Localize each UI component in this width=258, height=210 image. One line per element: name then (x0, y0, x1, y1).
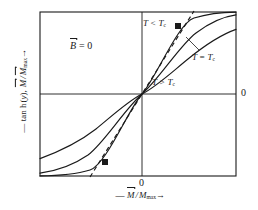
y-axis-func-tanh: tan h (18, 103, 28, 121)
field-vector-symbol: B (70, 41, 76, 51)
y-axis-label: —tan h(y),M/Mmax→ (18, 16, 28, 166)
field-equals-zero: = 0 (79, 40, 92, 51)
x-axis-label-arrow: → (156, 190, 164, 200)
y-axis-arg-open: ( (18, 99, 28, 102)
above-tc-subscript: c (172, 81, 174, 87)
plot-svg (0, 0, 258, 210)
y-axis-slash: / (18, 76, 28, 79)
x-axis-label: —M/Mmax→ (80, 190, 200, 200)
figure-container: B= 0 T < Tc T = Tc T > Tc 0 0 —M/Mmax→ —… (0, 0, 258, 210)
y-axis-arg-y: y (18, 95, 28, 99)
y-axis-magnetization-symbol: M (18, 80, 28, 88)
y-axis-max-subscript: max (22, 58, 28, 68)
at-tc-subscript: c (212, 56, 214, 62)
intersection-marker-lower (102, 159, 108, 165)
y-axis-mag-max-symbol: M (18, 68, 28, 76)
annotation-above-tc: T > Tc (152, 78, 175, 88)
origin-label-bottom: 0 (139, 178, 144, 188)
origin-label-right: 0 (241, 88, 246, 98)
annotation-below-tc: T < Tc (143, 19, 166, 29)
y-axis-arg-close: ) (18, 92, 28, 95)
at-tc-text: T = T (192, 52, 212, 62)
above-tc-text: T > T (152, 77, 172, 87)
y-axis-label-arrow: → (18, 50, 28, 58)
below-tc-text: T < T (143, 18, 163, 28)
x-axis-magnetization-symbol: M (127, 190, 135, 200)
annotation-at-tc: T = Tc (192, 53, 215, 63)
intersection-marker-upper (175, 23, 181, 29)
leader-line-at-tc (186, 37, 199, 50)
y-axis-comma: , (18, 90, 28, 92)
annotation-zero-field: B= 0 (70, 41, 92, 51)
x-axis-slash: / (135, 190, 138, 200)
x-axis-label-dash: — (115, 190, 123, 200)
y-axis-label-dash: — (18, 124, 28, 132)
below-tc-subscript: c (163, 22, 165, 28)
x-axis-max-subscript: max (146, 194, 156, 200)
